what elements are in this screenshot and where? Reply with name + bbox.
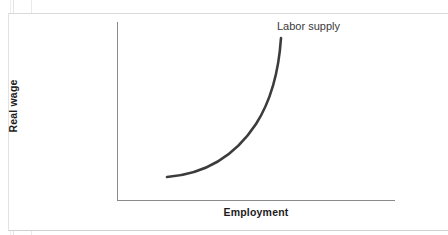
labor-supply-curve [167,38,281,177]
labor-supply-chart [0,0,448,235]
document-page: Employment Real wage Labor supply [0,0,448,235]
labor-supply-curve-label: Labor supply [277,20,340,32]
x-axis-label: Employment [117,206,395,218]
y-axis-label: Real wage [7,70,19,142]
